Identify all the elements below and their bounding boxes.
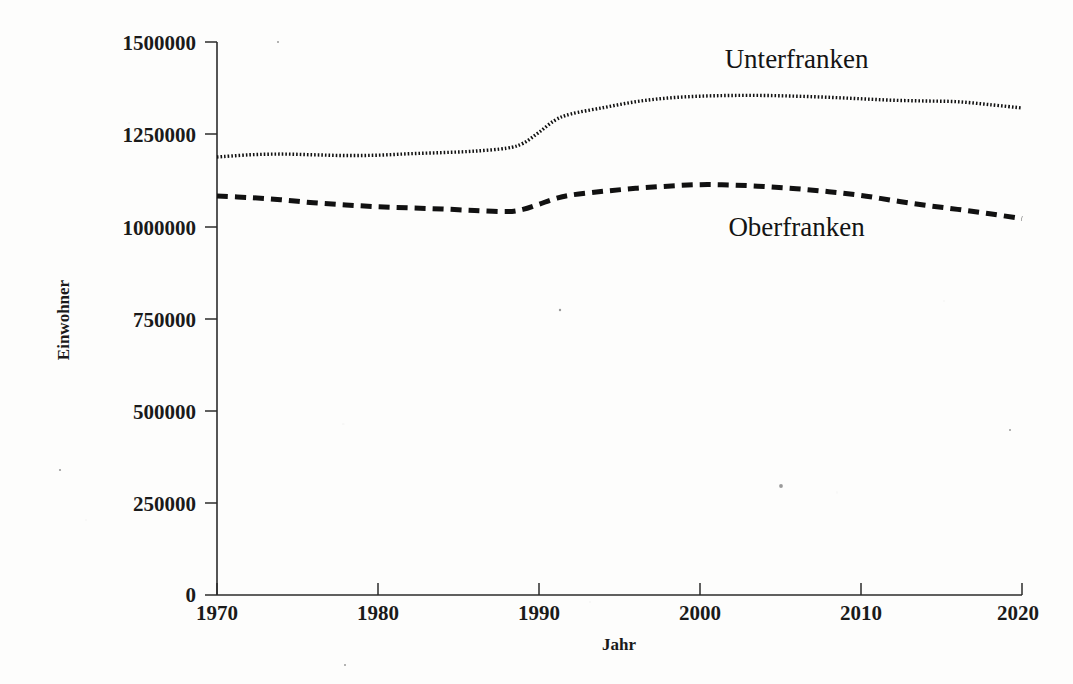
y-tick-label-1000000: 1000000 (123, 216, 197, 240)
x-tick-label-2010: 2010 (840, 601, 882, 625)
x-tick-label-1980: 1980 (357, 601, 399, 625)
x-tick-marks (217, 583, 1022, 595)
y-tick-label-1250000: 1250000 (123, 123, 197, 147)
y-tick-label-1500000: 1500000 (123, 31, 197, 55)
x-tick-label-1990: 1990 (518, 601, 560, 625)
x-tick-label-2000: 2000 (679, 601, 721, 625)
series-label-unterfranken: Unterfranken (725, 44, 869, 74)
x-tick-label-1970: 1970 (196, 601, 238, 625)
y-tick-labels: 1500000 1250000 1000000 750000 500000 25… (123, 31, 197, 607)
series-line-unterfranken (217, 95, 1022, 157)
y-axis-title: Einwohner (54, 279, 73, 360)
y-tick-label-500000: 500000 (133, 400, 196, 424)
y-tick-label-0: 0 (186, 583, 197, 607)
series-label-oberfranken: Oberfranken (728, 212, 865, 242)
series-group (217, 95, 1022, 218)
x-axis-title: Jahr (602, 635, 636, 654)
population-line-chart: 1500000 1250000 1000000 750000 500000 25… (0, 0, 1073, 684)
y-tick-label-750000: 750000 (133, 308, 196, 332)
x-tick-labels: 1970 1980 1990 2000 2010 2020 (196, 601, 1039, 625)
y-tick-label-250000: 250000 (133, 492, 196, 516)
chart-page: 1500000 1250000 1000000 750000 500000 25… (0, 0, 1073, 684)
axes-group (217, 42, 1022, 595)
y-tick-marks (205, 42, 217, 595)
series-line-oberfranken (217, 185, 1022, 219)
x-tick-label-2020: 2020 (997, 601, 1039, 625)
